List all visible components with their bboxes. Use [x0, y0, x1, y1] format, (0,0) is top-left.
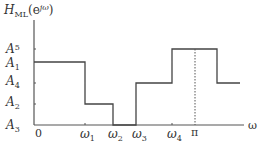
svg-text:A3: A3 [5, 118, 20, 134]
svg-text:ω: ω [248, 119, 257, 132]
svg-text:A2: A2 [5, 95, 20, 111]
svg-text:ω4: ω4 [167, 127, 182, 143]
svg-text:0: 0 [35, 127, 42, 140]
piecewise-frequency-response-diagram: HML(ejω) A5 A1 A4 A2 A3 0 ω1 ω2 ω3 ω4 π … [0, 0, 267, 146]
plot-title: HML(ejω) [3, 3, 53, 19]
svg-text:A5: A5 [5, 42, 20, 56]
svg-text:A4: A4 [5, 74, 20, 90]
y-labels: A5 A1 A4 A2 A3 [5, 42, 20, 134]
svg-text:π: π [191, 126, 198, 139]
svg-text:ω1: ω1 [80, 127, 95, 143]
svg-text:A1: A1 [5, 56, 20, 72]
x-labels: 0 ω1 ω2 ω3 ω4 π ω [35, 119, 257, 143]
response-curve [34, 49, 240, 125]
svg-text:ω3: ω3 [132, 127, 147, 143]
svg-text:ω2: ω2 [108, 127, 123, 143]
